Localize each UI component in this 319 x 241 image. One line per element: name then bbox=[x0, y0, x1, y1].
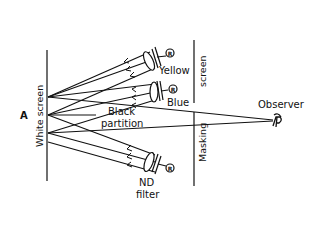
nd-filter-label-line2: filter bbox=[136, 189, 159, 200]
nd-filter-label-line1: ND bbox=[139, 177, 154, 188]
nd-filter-lamp-icon: R bbox=[142, 151, 174, 174]
white-screen-label: White screen bbox=[35, 85, 45, 147]
observer-eye-icon bbox=[273, 114, 281, 127]
masking-screen-top-label: screen bbox=[198, 55, 208, 87]
observer-label: Observer bbox=[258, 99, 304, 110]
masking-screen-bottom-label: Masking bbox=[198, 123, 208, 162]
yellow-label: Yellow bbox=[159, 65, 190, 76]
svg-text:R: R bbox=[168, 50, 173, 57]
blue-label: Blue bbox=[167, 97, 189, 108]
optical-setup-diagram: R R R A White screen screen Maskin bbox=[0, 0, 319, 241]
svg-text:R: R bbox=[168, 165, 173, 172]
svg-text:R: R bbox=[171, 86, 176, 93]
diagram-lines: R R R bbox=[0, 0, 319, 241]
black-partition-label-line1: Black bbox=[108, 106, 135, 117]
point-a-label: A bbox=[20, 110, 28, 121]
black-partition-label-line2: partition bbox=[101, 118, 143, 129]
